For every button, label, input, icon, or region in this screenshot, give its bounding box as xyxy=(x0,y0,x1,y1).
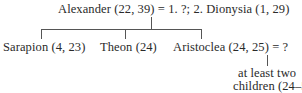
child-drop-line-sarapion xyxy=(41,29,42,39)
child-label-theon: Theon (24) xyxy=(100,40,157,54)
child-drop-line-theon xyxy=(125,29,126,39)
root-descent-line xyxy=(151,17,152,29)
child-label-sarapion: Sarapion (4, 23) xyxy=(3,40,85,54)
grandchildren-label-line2: children (24–5) xyxy=(233,79,302,93)
aristoclea-descent-line xyxy=(267,55,268,66)
sibling-bar-line xyxy=(41,29,202,30)
child-drop-line-aristoclea xyxy=(201,29,202,39)
child-label-aristoclea: Aristoclea (24, 25) = ? xyxy=(173,40,288,54)
grandchildren-label-line1: at least two xyxy=(238,66,296,80)
root-person-label: Alexander (22, 39) = 1. ?; 2. Dionysia (… xyxy=(58,2,289,16)
